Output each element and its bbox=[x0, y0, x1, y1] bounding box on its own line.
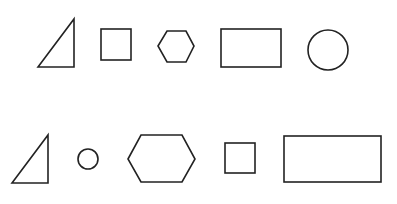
row2-hexagon bbox=[128, 135, 195, 182]
row2-square bbox=[225, 143, 255, 173]
row2-circle bbox=[78, 149, 98, 169]
row2-triangle bbox=[12, 135, 48, 183]
row2-rectangle bbox=[284, 136, 381, 182]
row1-rectangle bbox=[221, 29, 281, 67]
row1-square bbox=[101, 29, 131, 60]
row-1 bbox=[38, 19, 348, 70]
row-2 bbox=[12, 135, 381, 183]
row1-triangle bbox=[38, 19, 74, 67]
shapes-canvas bbox=[0, 0, 397, 204]
row1-circle bbox=[308, 30, 348, 70]
row1-hexagon bbox=[158, 31, 194, 62]
